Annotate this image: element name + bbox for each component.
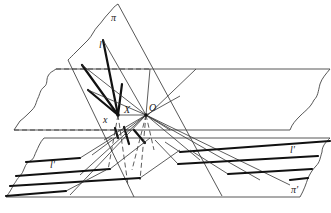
point-O: [144, 113, 148, 117]
label-l: l: [99, 39, 102, 50]
label-O: O: [149, 102, 156, 113]
label-pi: π: [111, 12, 117, 23]
label-x: x: [102, 114, 108, 125]
label-l-prime-right: l': [290, 144, 296, 155]
label-X: X: [123, 104, 131, 115]
projection-diagram: π l X O x l' l' π': [0, 0, 331, 213]
label-l-prime-left: l': [50, 159, 56, 170]
middle-plane: [14, 69, 330, 130]
plane-pi: [68, 4, 222, 197]
dashed-rays: [108, 115, 154, 185]
line-l-segments: [82, 40, 145, 144]
label-pi-prime: π': [291, 184, 299, 195]
point-X: [116, 113, 120, 117]
